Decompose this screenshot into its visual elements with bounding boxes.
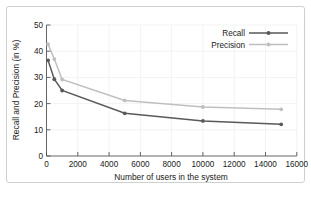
x-axis-title: Number of users in the system: [114, 172, 228, 182]
data-point: [201, 105, 205, 109]
data-point: [279, 107, 283, 111]
legend-marker-precision: [267, 43, 271, 47]
data-point: [60, 89, 64, 93]
precision-line: [48, 44, 281, 109]
recall-line: [48, 60, 281, 124]
data-point: [201, 119, 205, 123]
y-axis-title: Recall and Precision (in %): [11, 40, 21, 141]
x-tick-label-12000: 12000: [223, 160, 246, 169]
x-tick-label-16000: 16000: [285, 160, 308, 169]
y-tick-label-50: 50: [34, 21, 44, 30]
x-tick-label-10000: 10000: [192, 160, 215, 169]
y-tick-label-10: 10: [34, 126, 44, 135]
series-precision: [46, 42, 283, 111]
x-tick-label-4000: 4000: [100, 160, 119, 169]
figure-container: 50 40 30 20 10 0 0 2000 4000 6000 8000 1…: [0, 0, 311, 197]
y-axis-tick-labels: 50 40 30 20 10 0: [34, 21, 44, 161]
y-tick-label-20: 20: [34, 100, 44, 109]
data-point: [60, 78, 64, 82]
data-point: [123, 111, 127, 115]
legend: Recall Precision: [211, 29, 288, 50]
recall-markers: [46, 58, 283, 126]
data-point: [46, 58, 50, 62]
x-tick-label-14000: 14000: [254, 160, 277, 169]
data-point: [52, 57, 56, 61]
data-point: [123, 99, 127, 103]
legend-label-precision: Precision: [211, 41, 245, 50]
legend-marker-recall: [267, 31, 271, 35]
line-chart: 50 40 30 20 10 0 0 2000 4000 6000 8000 1…: [0, 0, 311, 197]
data-point: [46, 42, 50, 46]
x-axis-tick-labels: 0 2000 4000 6000 8000 10000 12000 14000 …: [44, 160, 308, 169]
x-tick-label-6000: 6000: [131, 160, 150, 169]
x-tick-label-2000: 2000: [69, 160, 88, 169]
series-recall: [46, 58, 283, 126]
x-tick-label-8000: 8000: [162, 160, 181, 169]
data-point: [279, 122, 283, 126]
legend-label-recall: Recall: [222, 29, 245, 38]
y-tick-label-40: 40: [34, 47, 44, 56]
data-point: [52, 77, 56, 81]
x-axis-ticks: [47, 152, 297, 156]
x-tick-label-0: 0: [44, 160, 49, 169]
y-tick-label-30: 30: [34, 73, 44, 82]
y-tick-label-0: 0: [38, 152, 43, 161]
precision-markers: [46, 42, 283, 111]
